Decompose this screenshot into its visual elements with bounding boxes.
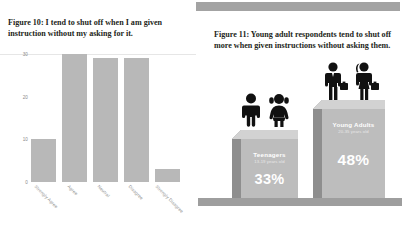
- column-young-adults: Young Adults 20-35 years old 48%: [313, 100, 385, 198]
- value-teenagers: 33%: [241, 171, 298, 187]
- column-top: [313, 100, 385, 109]
- sublabel-teenagers: 13-19 years old: [241, 159, 298, 164]
- column-face: Teenagers 13-19 years old 33%: [241, 139, 298, 198]
- y-tick-10: 10: [23, 137, 28, 142]
- x-axis: Strongly Agree Agree Neutral Disagree St…: [31, 184, 196, 244]
- bar-rect: [93, 58, 118, 182]
- bar-rect: [124, 58, 149, 182]
- right-figure-panel: Figure 11: Young adult respondents tend …: [196, 0, 413, 252]
- teen-boy-girl-icon: [236, 93, 294, 127]
- y-tick-20: 20: [23, 94, 28, 99]
- bar-rect: [155, 169, 180, 182]
- bars-container: [31, 54, 186, 182]
- x-label-disagree: Disagree: [127, 184, 144, 201]
- x-label-neutral: Neutral: [96, 184, 110, 198]
- label-young-adults: Young Adults: [322, 121, 385, 128]
- bar-chart-figure-10: 0 10 20 30: [0, 54, 196, 184]
- y-tick-0: 0: [25, 180, 28, 185]
- teen-boy-icon: [238, 93, 264, 127]
- label-teenagers: Teenagers: [241, 151, 298, 158]
- adult-woman-icon: [350, 62, 380, 100]
- column-top: [232, 130, 298, 139]
- adult-man-icon: [319, 62, 349, 100]
- bar-rect: [31, 139, 56, 182]
- adult-man-woman-icon: [317, 62, 381, 100]
- figure-11-title: Figure 11: Young adult respondents tend …: [214, 30, 402, 52]
- column-face: Young Adults 20-35 years old 48%: [322, 109, 385, 198]
- x-label-strongly-agree: Strongly Agree: [33, 184, 58, 209]
- ground-bar: [198, 198, 402, 206]
- bar-rect: [62, 54, 87, 182]
- left-figure-panel: Figure 10: I tend to shut off when I am …: [0, 0, 196, 252]
- column-side: [313, 100, 322, 198]
- x-label-strongly-disagree: Strongly Disagree: [154, 184, 184, 214]
- y-tick-30: 30: [23, 52, 28, 57]
- x-label-agree: Agree: [66, 184, 78, 196]
- y-axis: 0 10 20 30: [0, 54, 30, 184]
- column-teenagers: Teenagers 13-19 years old 33%: [232, 130, 298, 198]
- figure-10-title: Figure 10: I tend to shut off when I am …: [8, 18, 186, 39]
- infographic-figure-11: Teenagers 13-19 years old 33%: [196, 60, 413, 220]
- accent-bar: [196, 2, 400, 11]
- teen-girl-icon: [265, 93, 293, 127]
- value-young-adults: 48%: [322, 151, 385, 169]
- column-side: [232, 130, 241, 198]
- sublabel-young-adults: 20-35 years old: [322, 129, 385, 134]
